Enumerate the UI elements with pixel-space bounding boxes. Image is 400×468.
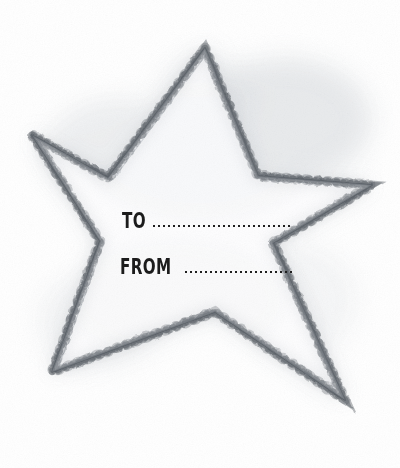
to-label: TO bbox=[122, 210, 146, 231]
from-label: FROM bbox=[120, 256, 171, 277]
field-row-to[interactable]: TO bbox=[122, 212, 291, 231]
field-row-from[interactable]: FROM bbox=[120, 258, 295, 277]
paper-grain bbox=[0, 0, 400, 468]
gift-tag-canvas: TO FROM bbox=[0, 0, 400, 468]
star-illustration bbox=[0, 0, 400, 468]
to-dotted-rule[interactable] bbox=[153, 217, 291, 231]
from-dotted-rule[interactable] bbox=[185, 263, 295, 277]
